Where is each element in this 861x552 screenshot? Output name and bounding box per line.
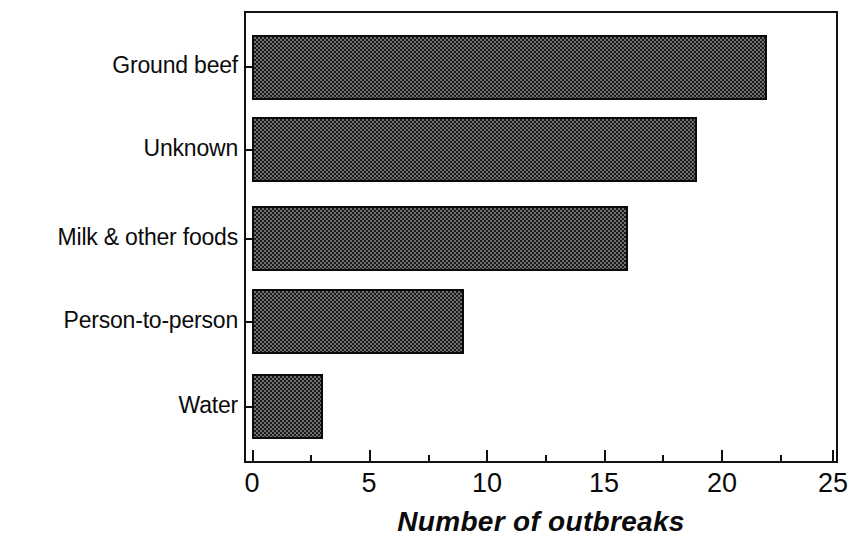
- x-tick-minor-17-5: [662, 455, 664, 461]
- x-axis-label-25: 25: [818, 470, 848, 497]
- bar-person-to-person: [252, 289, 464, 354]
- bar-unknown: [252, 117, 697, 182]
- x-axis-title: Number of outbreaks: [244, 508, 838, 536]
- x-tick-major-0: [252, 450, 254, 461]
- x-axis-label-10: 10: [472, 470, 502, 497]
- x-tick-major-10: [486, 450, 488, 461]
- x-tick-major-25: [832, 450, 834, 461]
- bar-milk-and-other-foods: [252, 206, 628, 271]
- bar-water: [252, 374, 323, 439]
- category-label-milk-and-other-foods: Milk & other foods: [0, 226, 238, 249]
- bar-ground-beef: [252, 35, 767, 100]
- category-label-person-to-person: Person-to-person: [0, 309, 238, 332]
- x-axis-label-15: 15: [589, 470, 619, 497]
- category-label-unknown: Unknown: [0, 137, 238, 160]
- x-tick-major-5: [369, 450, 371, 461]
- x-tick-minor-2-5: [310, 455, 312, 461]
- x-axis-label-20: 20: [707, 470, 737, 497]
- bar-chart: Ground beef Unknown Milk & other foods P…: [0, 0, 861, 552]
- x-tick-minor-7-5: [428, 455, 430, 461]
- category-label-water: Water: [0, 394, 238, 417]
- category-label-ground-beef: Ground beef: [0, 54, 238, 77]
- x-tick-major-20: [721, 450, 723, 461]
- x-tick-major-15: [604, 450, 606, 461]
- x-tick-minor-12-5: [545, 455, 547, 461]
- x-axis-label-0: 0: [244, 470, 259, 497]
- x-tick-minor-22-5: [780, 455, 782, 461]
- x-axis-label-5: 5: [361, 470, 376, 497]
- plot-area: [244, 11, 838, 463]
